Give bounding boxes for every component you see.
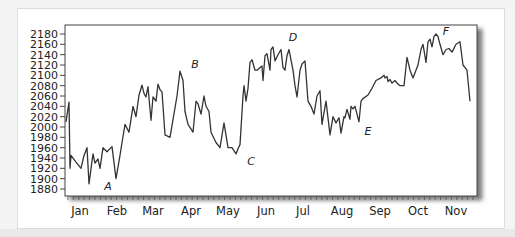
x-tick-label: Jun — [256, 204, 275, 218]
x-axis: JanFebMarAprMayJunJulAugSepOctNov — [68, 196, 473, 218]
annotation-f: F — [443, 25, 450, 38]
x-tick-label: Nov — [445, 204, 468, 218]
annotation-a: A — [103, 180, 112, 193]
x-tick-label: Feb — [107, 204, 127, 218]
x-tick-label: Mar — [142, 204, 164, 218]
x-tick-label: May — [216, 204, 240, 218]
x-tick-label: Jul — [295, 204, 310, 218]
annotation-e: E — [365, 125, 372, 138]
x-tick-label: Oct — [408, 204, 428, 218]
annotation-b: B — [191, 58, 199, 71]
y-axis: 1880190019201940196019802000202020402060… — [30, 28, 65, 196]
x-tick-label: Apr — [181, 204, 201, 218]
annotation-c: C — [247, 155, 255, 168]
y-tick-label: 2180 — [30, 28, 58, 41]
x-tick-label: Sep — [369, 204, 391, 218]
annotation-d: D — [289, 31, 297, 44]
x-tick-label: Aug — [331, 204, 353, 218]
line-chart: 1880190019201940196019802000202020402060… — [0, 0, 515, 237]
x-tick-label: Jan — [70, 204, 89, 218]
